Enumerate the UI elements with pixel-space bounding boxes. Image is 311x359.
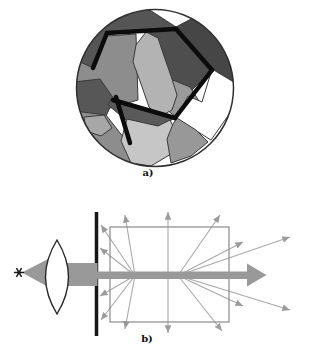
- panel-b-label: b): [132, 333, 162, 344]
- transmitted-beam-shaft: [96, 272, 248, 280]
- scattered-ray: [100, 248, 135, 276]
- lens-icon: [46, 240, 69, 314]
- grain-map: [73, 5, 237, 168]
- source-point: [17, 271, 20, 274]
- scattered-ray: [101, 225, 135, 276]
- scattered-ray: [125, 276, 135, 330]
- figure-canvas: a) b): [0, 0, 311, 359]
- panel-b-optical-schematic: [15, 212, 291, 336]
- scattered-ray: [178, 237, 290, 276]
- scattered-ray: [178, 242, 243, 276]
- scattered-ray: [125, 215, 135, 276]
- scattered-ray: [101, 276, 135, 321]
- panel-a-micrograph: [73, 5, 237, 168]
- figure-svg: [0, 0, 311, 359]
- scattered-ray: [178, 276, 243, 307]
- transmitted-beam-arrowhead-icon: [247, 264, 267, 287]
- scattered-ray: [178, 276, 222, 332]
- panel-a-label: a): [133, 167, 163, 178]
- scattered-ray: [178, 276, 290, 311]
- scattered-ray: [178, 215, 220, 276]
